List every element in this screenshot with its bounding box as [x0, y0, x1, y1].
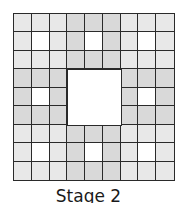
grid-cell — [14, 69, 32, 87]
grid-cell — [67, 125, 85, 143]
grid-cell — [50, 162, 68, 180]
grid-cell — [85, 51, 103, 69]
grid-cell — [50, 51, 68, 69]
grid-cell — [14, 162, 32, 180]
center-removed-square — [67, 69, 122, 126]
figure-caption: Stage 2 — [0, 186, 177, 203]
grid-cell — [85, 162, 103, 180]
grid-cell — [156, 162, 174, 180]
grid-cell — [138, 125, 156, 143]
grid-cell — [67, 143, 85, 161]
grid-cell — [14, 51, 32, 69]
grid-cell — [103, 14, 121, 32]
grid-cell — [138, 106, 156, 124]
grid-cell — [121, 51, 139, 69]
grid-cell — [85, 125, 103, 143]
grid-cell — [103, 51, 121, 69]
grid-cell — [121, 88, 139, 106]
grid-cell — [138, 162, 156, 180]
grid-cell — [121, 69, 139, 87]
grid-cell — [67, 32, 85, 50]
grid-cell — [32, 51, 50, 69]
grid-cell — [50, 32, 68, 50]
grid-cell — [14, 106, 32, 124]
grid-cell — [14, 88, 32, 106]
grid-cell — [67, 162, 85, 180]
grid-cell — [14, 32, 32, 50]
grid-cell — [156, 106, 174, 124]
grid-cell — [138, 32, 156, 50]
grid-cell — [121, 106, 139, 124]
grid-cell — [156, 88, 174, 106]
grid-cell — [121, 32, 139, 50]
grid-cell — [156, 143, 174, 161]
grid-cell — [121, 162, 139, 180]
grid-cell — [67, 14, 85, 32]
grid-cell — [103, 32, 121, 50]
grid-cell — [50, 143, 68, 161]
grid-cell — [121, 143, 139, 161]
grid-cell — [50, 69, 68, 87]
grid-cell — [32, 143, 50, 161]
grid-cell — [156, 32, 174, 50]
grid-cell — [103, 125, 121, 143]
grid-cell — [156, 125, 174, 143]
grid-cell — [67, 51, 85, 69]
grid-cell — [156, 14, 174, 32]
grid-cell — [32, 125, 50, 143]
grid-cell — [103, 143, 121, 161]
grid-cell — [14, 14, 32, 32]
grid-cell — [85, 32, 103, 50]
grid-cell — [32, 162, 50, 180]
grid-cell — [156, 51, 174, 69]
grid-cell — [50, 88, 68, 106]
grid-cell — [103, 162, 121, 180]
grid-cell — [14, 143, 32, 161]
grid-cell — [32, 32, 50, 50]
grid-cell — [85, 143, 103, 161]
grid-cell — [156, 69, 174, 87]
grid-cell — [14, 125, 32, 143]
grid-cell — [138, 88, 156, 106]
grid-cell — [138, 51, 156, 69]
grid-cell — [32, 106, 50, 124]
grid-cell — [50, 125, 68, 143]
grid-cell — [138, 69, 156, 87]
grid-cell — [50, 106, 68, 124]
grid-cell — [138, 14, 156, 32]
grid-cell — [85, 14, 103, 32]
grid-cell — [121, 125, 139, 143]
grid-cell — [121, 14, 139, 32]
grid-cell — [32, 88, 50, 106]
grid-cell — [32, 14, 50, 32]
grid-cell — [32, 69, 50, 87]
grid-cell — [50, 14, 68, 32]
grid-cell — [138, 143, 156, 161]
